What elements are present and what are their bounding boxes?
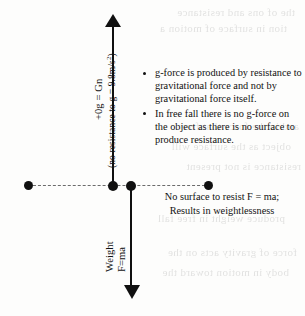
caption-line-2: Results in weightlessness — [141, 204, 303, 218]
scan-bleedthrough-layer: the of ons and resistance tion in surfac… — [0, 0, 305, 316]
g-force-axis-label: +0g = Gn — [93, 79, 104, 120]
notes-list: g-force is produced by resistance to gra… — [140, 66, 302, 147]
g-force-sublabel-exponent: 2 — [105, 57, 112, 61]
down-arrow-icon — [124, 285, 140, 299]
ghost-text-line: resistance is not present — [186, 160, 301, 172]
axis-node-dot — [24, 181, 33, 190]
axis-node-dot — [126, 181, 136, 191]
caption-line-1: No surface to resist F = ma; — [141, 190, 303, 204]
g-force-axis-sublabel: (no resistance to g = 9.8m/s2) — [105, 53, 117, 168]
weight-axis-line — [130, 187, 132, 287]
axis-node-dot — [108, 181, 118, 191]
ghost-text-line: force of gravity acts on the — [168, 246, 297, 258]
weight-formula-label: F=ma — [116, 247, 127, 272]
diagram-canvas: the of ons and resistance tion in surfac… — [0, 0, 305, 316]
g-force-sublabel-text: (no resistance to g = 9.8m/s — [107, 60, 117, 168]
weightlessness-caption: No surface to resist F = ma; Results in … — [141, 190, 303, 217]
horizontal-dashed-axis — [28, 185, 210, 186]
list-item: In free fall there is no g-force on the … — [140, 107, 302, 147]
list-item: g-force is produced by resistance to gra… — [140, 66, 302, 106]
ghost-text-line: tion in surface of motion a — [160, 22, 287, 34]
weight-axis-label: Weight — [104, 241, 115, 272]
ghost-text-line: the of ons and resistance — [177, 6, 295, 18]
ghost-text-line: body in motion toward the — [162, 266, 289, 278]
g-force-sublabel-tail: ) — [107, 53, 117, 56]
axis-node-dot — [204, 181, 213, 190]
